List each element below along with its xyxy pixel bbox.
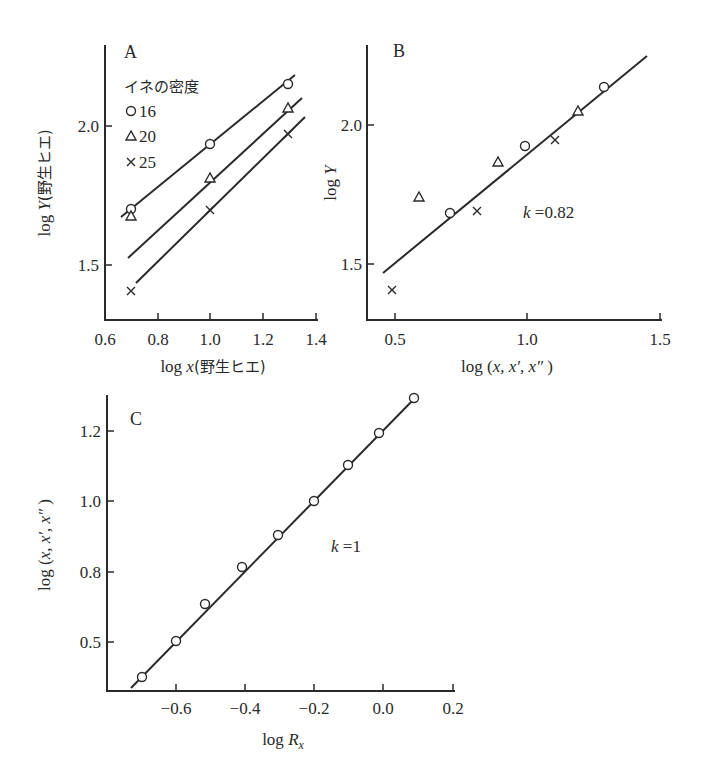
panel-b-ytick-label: 1.5 [341, 255, 362, 274]
panel-b-xtick-label: 0.5 [384, 330, 405, 349]
data-point [310, 497, 319, 506]
data-point [388, 286, 396, 294]
data-point [138, 673, 147, 682]
panel-c-ytick-label: 1.2 [80, 422, 101, 441]
panel-c-ytick-label: 0.8 [80, 563, 101, 582]
panel-c-label: C [130, 409, 142, 429]
panel-c-xtick-label: −0.4 [230, 699, 261, 718]
data-point [201, 600, 210, 609]
triangle-marker-icon [126, 131, 136, 140]
panel-b: 2.0 1.5 0.5 1.0 1.5 log (x, x′, x″ ) log… [321, 41, 671, 376]
data-point [344, 461, 353, 470]
panel-a-xtick-label: 0.6 [94, 330, 115, 349]
panel-a-fit-25 [136, 117, 305, 283]
panel-a-xtick-label: 1.2 [252, 330, 273, 349]
panel-a-xtick-label: 0.8 [147, 330, 168, 349]
panel-b-xtick-label: 1.0 [516, 330, 537, 349]
figure: 2.0 1.5 0.6 0.8 1.0 1.2 1.4 log x(野生ヒエ) … [0, 0, 701, 773]
panel-c-xtick-label: 0.0 [372, 699, 393, 718]
panel-a-xtick-label: 1.0 [199, 330, 220, 349]
data-point [446, 209, 455, 218]
svg-text:25: 25 [139, 153, 156, 172]
panel-c-xtick-label: 0.2 [442, 699, 463, 718]
panel-c: 1.2 1.0 0.8 0.5 −0.6 −0.4 −0.2 0.0 0.2 l… [35, 394, 464, 753]
panel-b-label: B [393, 41, 405, 61]
panel-b-annotation: k =0.82 [523, 203, 574, 222]
data-point [521, 142, 530, 151]
data-point [284, 130, 292, 138]
panel-a-ytick-label: 1.5 [78, 256, 99, 275]
svg-text:16: 16 [139, 102, 156, 121]
data-point [238, 563, 247, 572]
legend-item-25: 25 [127, 153, 156, 172]
panel-c-xtick-label: −0.2 [299, 699, 330, 718]
data-point [375, 429, 384, 438]
data-point [493, 157, 503, 166]
data-point [274, 531, 283, 540]
panel-c-ytick-label: 0.5 [80, 633, 101, 652]
x-marker-icon [127, 158, 135, 166]
panel-a-ytick-label: 2.0 [78, 117, 99, 136]
panel-c-xtick-label: −0.6 [161, 699, 192, 718]
panel-b-x-axis-label: log (x, x′, x″ ) [461, 357, 553, 376]
legend-item-20: 20 [126, 127, 156, 146]
data-point [127, 287, 135, 295]
data-point [205, 173, 215, 182]
data-point [600, 83, 609, 92]
data-point [414, 192, 424, 201]
panel-c-ytick-label: 1.0 [80, 492, 101, 511]
panel-c-x-axis-label: log Rx [262, 730, 304, 752]
panel-a-xtick-label: 1.4 [305, 330, 327, 349]
panel-a-x-axis-label: log x(野生ヒエ) [160, 357, 265, 376]
circle-marker-icon [127, 107, 136, 116]
svg-text:20: 20 [139, 127, 156, 146]
panel-b-xtick-label: 1.5 [649, 330, 670, 349]
panel-a-fit-20 [128, 98, 302, 258]
data-point [410, 394, 419, 403]
legend-title: イネの密度 [124, 78, 199, 96]
panel-a: 2.0 1.5 0.6 0.8 1.0 1.2 1.4 log x(野生ヒエ) … [35, 42, 327, 376]
panel-b-y-axis-label: log Y [321, 164, 340, 201]
data-point [473, 207, 481, 215]
panel-a-y-axis-label: log Y(野生ヒエ) [35, 129, 54, 236]
panel-c-y-axis-label: log (x, x′, x″ ) [35, 499, 54, 591]
data-point [551, 136, 559, 144]
panel-b-ytick-label: 2.0 [341, 116, 362, 135]
data-point [206, 206, 214, 214]
panel-a-label: A [124, 42, 137, 62]
data-point [172, 637, 181, 646]
panel-c-annotation: k =1 [331, 537, 361, 556]
legend-item-16: 16 [127, 102, 157, 121]
data-point [284, 80, 293, 89]
data-point [206, 140, 215, 149]
